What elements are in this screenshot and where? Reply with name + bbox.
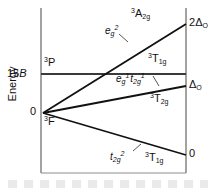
term-label-3t1g-f: 3T1g (145, 152, 163, 163)
term-3f-letter: F (48, 115, 55, 127)
term-3a2g-superscript: 3 (131, 7, 135, 14)
right-label-two-delta-subscript: O (202, 22, 207, 29)
right-label-zero: 0 (189, 148, 195, 159)
config-eg1-letter: e (116, 73, 122, 84)
level-line-3t1g-f (43, 113, 186, 155)
config-eg1-subscript: g (122, 78, 126, 85)
term-3t2g-superscript: 3 (150, 92, 154, 99)
term-3t1g-f-letter: T (149, 151, 156, 163)
term-3t1g-f-subscript: 1g (156, 157, 164, 164)
term-3t1g-f-superscript: 3 (145, 151, 149, 158)
term-3t2g-subscript: 2g (161, 98, 169, 105)
term-label-3t1g-p: 3T1g (148, 53, 166, 64)
y-tick-15b-number: 15 (7, 67, 19, 79)
config-eg1-superscript: 1 (125, 72, 129, 79)
config-label-t2g2: t2g2 (110, 152, 124, 162)
config-eg2-letter: e (105, 25, 111, 36)
right-label-two-delta-o: 2ΔO (189, 17, 208, 28)
term-3p-superscript: 3 (44, 56, 48, 63)
term-label-3a2g: 3A2g (131, 8, 150, 19)
config-eg2-subscript: g (111, 30, 115, 37)
y-axis-title: Energy (6, 56, 18, 112)
term-label-3t2g: 3T2g (150, 93, 168, 104)
energy-level-correlation-diagram: Energy 15B 0 3P 3F 3A2g eg2 3T1g eg1 t2g… (0, 0, 213, 191)
config-t2g2-subscript: 2g (113, 156, 121, 163)
config-t2g1-subscript: 2g (133, 78, 141, 85)
term-3t1g-p-superscript: 3 (148, 52, 152, 59)
leader-line-eg2 (119, 34, 128, 42)
leader-line-t2g2 (133, 144, 141, 151)
term-3a2g-subscript: 2g (142, 13, 150, 20)
leader-line-eg1-t2g1 (153, 76, 159, 86)
term-3f-superscript: 3 (44, 115, 48, 122)
term-3t2g-letter: T (154, 92, 161, 104)
right-label-delta-subscript: O (196, 84, 201, 91)
config-t2g1-superscript: 1 (141, 72, 145, 79)
config-eg2-superscript: 2 (114, 24, 118, 31)
y-tick-15b-letter: B (19, 67, 26, 79)
config-label-eg2: eg2 (105, 26, 118, 36)
config-t2g2-superscript: 2 (121, 150, 125, 157)
right-label-delta-o: ΔO (189, 79, 202, 90)
term-3p-letter: P (48, 56, 55, 68)
caption-fragment (8, 180, 208, 188)
term-label-3f: 3F (44, 116, 55, 127)
term-3t1g-p-subscript: 1g (159, 58, 167, 65)
y-tick-zero: 0 (30, 106, 36, 117)
config-label-eg1-t2g1: eg1 t2g1 (116, 74, 145, 84)
term-label-3p: 3P (44, 57, 55, 68)
y-tick-15b: 15B (7, 68, 27, 79)
term-3t1g-p-letter: T (152, 52, 159, 64)
